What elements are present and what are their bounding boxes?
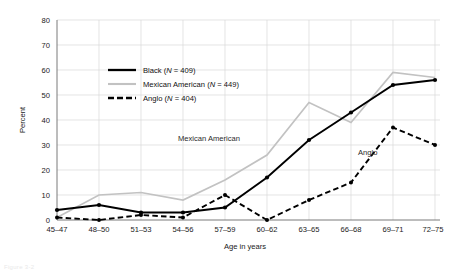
x-tick-69-71: 69–71	[382, 225, 403, 234]
series-line-anglo	[57, 128, 435, 221]
y-tick-labels: 80 70 60 50 40 30 20 10 0	[42, 16, 50, 225]
line-chart: 80 70 60 50 40 30 20 10 0 Percent	[0, 0, 458, 271]
x-tick-54-56: 54–56	[172, 225, 193, 234]
x-tick-labels: 45–47 48–50 51–53 54–56 57–59 60–62 63–6…	[46, 225, 443, 234]
y-tick-10: 10	[42, 191, 50, 200]
annotation-mexican-american: Mexican American	[178, 134, 240, 143]
marker-black-8	[391, 83, 395, 87]
x-tick-72-75: 72–75	[422, 225, 443, 234]
x-tick-60-62: 60–62	[256, 225, 277, 234]
annotation-anglo: Anglo	[358, 148, 377, 157]
y-tick-0: 0	[46, 216, 50, 225]
marker-anglo-9	[433, 143, 437, 147]
marker-black-3	[181, 210, 185, 214]
marker-anglo-7	[349, 181, 353, 185]
x-tick-63-65: 63–65	[298, 225, 319, 234]
legend-label-anglo: Anglo (N = 404)	[143, 94, 197, 103]
marker-black-5	[265, 175, 269, 179]
marker-black-0	[55, 208, 59, 212]
legend-anglo-prefix: Anglo (	[143, 94, 168, 103]
y-tick-20: 20	[42, 166, 50, 175]
x-tick-45-47: 45–47	[46, 225, 67, 234]
legend-mex-suffix: = 449)	[215, 80, 239, 89]
chart-legend: Black (N = 409) Mexican American (N = 44…	[108, 66, 239, 103]
chart-figure: 80 70 60 50 40 30 20 10 0 Percent	[0, 0, 458, 271]
marker-black-7	[349, 110, 353, 114]
marker-anglo-3	[181, 216, 185, 220]
x-axis-title: Age in years	[224, 242, 266, 251]
y-tick-40: 40	[42, 116, 50, 125]
marker-black-4	[223, 205, 227, 209]
x-tick-57-59: 57–59	[214, 225, 235, 234]
figure-caption: Figure 3-2	[4, 264, 34, 270]
marker-anglo-4	[223, 193, 227, 197]
x-tick-51-53: 51–53	[130, 225, 151, 234]
y-tick-60: 60	[42, 66, 50, 75]
x-tick-66-68: 66–68	[340, 225, 361, 234]
y-tick-50: 50	[42, 91, 50, 100]
y-axis-title: Percent	[18, 106, 27, 133]
x-tick-48-50: 48–50	[88, 225, 109, 234]
legend-anglo-suffix: = 404)	[173, 94, 197, 103]
y-tick-80: 80	[42, 16, 50, 25]
marker-black-6	[307, 138, 311, 142]
y-tick-70: 70	[42, 41, 50, 50]
marker-black-1	[97, 203, 101, 207]
marker-black-9	[433, 78, 437, 82]
marker-anglo-2	[139, 213, 143, 217]
legend-black-prefix: Black (	[143, 66, 167, 75]
marker-anglo-5	[265, 218, 269, 222]
legend-label-black: Black (N = 409)	[143, 66, 196, 75]
marker-anglo-0	[55, 216, 59, 220]
legend-black-suffix: = 409)	[172, 66, 196, 75]
marker-anglo-1	[97, 218, 101, 222]
legend-mex-prefix: Mexican American (	[143, 80, 210, 89]
horizontal-gridlines	[57, 20, 440, 195]
legend-label-mexican-american: Mexican American (N = 449)	[143, 80, 239, 89]
marker-anglo-8	[391, 126, 395, 130]
marker-anglo-6	[307, 198, 311, 202]
y-tick-30: 30	[42, 141, 50, 150]
